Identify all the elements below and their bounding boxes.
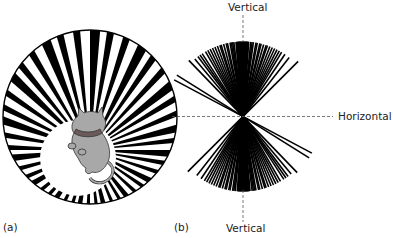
panel-b-label: (b) bbox=[174, 221, 189, 233]
figure-canvas bbox=[0, 0, 393, 238]
panel-a-label: (a) bbox=[3, 221, 18, 233]
axis-label-vertical-top: Vertical bbox=[228, 1, 267, 13]
axis-label-vertical-bottom: Vertical bbox=[226, 222, 265, 234]
orientation-fan bbox=[172, 15, 333, 222]
axis-label-horizontal: Horizontal bbox=[338, 110, 392, 122]
